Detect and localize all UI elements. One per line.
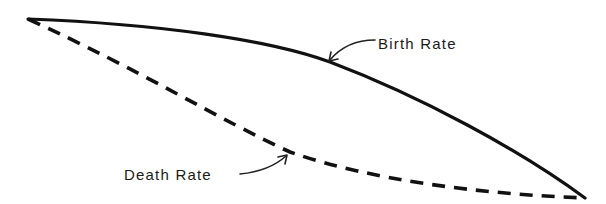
- death-rate-label: Death Rate: [124, 167, 212, 182]
- rates-chart: [0, 0, 606, 204]
- birth-rate-leader: [330, 40, 375, 60]
- birth-rate-curve: [28, 19, 585, 198]
- birth-rate-label: Birth Rate: [378, 36, 457, 51]
- death-rate-curve: [28, 19, 585, 198]
- death-rate-leader: [240, 156, 286, 174]
